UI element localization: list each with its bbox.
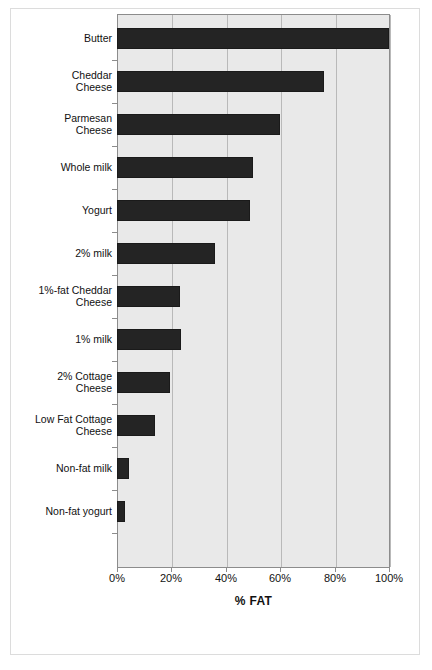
figure-canvas: ButterCheddar CheeseParmesan CheeseWhole… <box>0 0 432 670</box>
y-axis-category-label: Non-fat milk <box>8 462 112 475</box>
bar-row <box>117 28 390 49</box>
x-axis-tick-label: 60% <box>269 572 291 584</box>
bar-row <box>117 501 390 522</box>
y-axis-tick <box>112 103 117 104</box>
y-axis-category-label: 1% milk <box>8 333 112 346</box>
bar <box>117 243 215 264</box>
y-axis-tick <box>112 275 117 276</box>
y-axis-category-label: Non-fat yogurt <box>8 505 112 518</box>
y-axis-category-label: Low Fat Cottage Cheese <box>8 413 112 438</box>
x-axis-tick-label: 40% <box>215 572 237 584</box>
bar <box>117 501 125 522</box>
bar-row <box>117 415 390 436</box>
bar <box>117 200 250 221</box>
y-axis-category-label: Butter <box>8 32 112 45</box>
bar <box>117 28 389 49</box>
y-axis-tick <box>112 189 117 190</box>
y-axis-category-label: Parmesan Cheese <box>8 112 112 137</box>
bar-row <box>117 372 390 393</box>
y-axis-category-label: 2% Cottage Cheese <box>8 370 112 395</box>
bar <box>117 458 129 479</box>
bars-layer <box>117 14 390 568</box>
y-axis-category-label: Yogurt <box>8 204 112 217</box>
bar <box>117 415 155 436</box>
y-axis-tick <box>112 404 117 405</box>
y-axis-tick <box>112 490 117 491</box>
y-axis-tick <box>112 318 117 319</box>
bar-row <box>117 114 390 135</box>
y-axis-tick <box>112 361 117 362</box>
gridline-100% <box>390 15 391 567</box>
bar <box>117 372 170 393</box>
bar-row <box>117 200 390 221</box>
bar-row <box>117 458 390 479</box>
x-axis-title: % FAT <box>117 594 390 608</box>
y-axis-tick <box>112 232 117 233</box>
y-axis-tick <box>112 533 117 534</box>
y-axis-tick <box>112 60 117 61</box>
x-axis-tick-label: 100% <box>375 572 403 584</box>
bar-row <box>117 243 390 264</box>
bar <box>117 286 180 307</box>
bar-row <box>117 286 390 307</box>
y-axis-category-label: Cheddar Cheese <box>8 69 112 94</box>
x-axis-tick-label: 20% <box>160 572 182 584</box>
bar-row <box>117 71 390 92</box>
y-axis-labels: ButterCheddar CheeseParmesan CheeseWhole… <box>0 14 112 568</box>
bar <box>117 329 181 350</box>
bar <box>117 114 280 135</box>
x-axis-tick-labels: 0%20%40%60%80%100% <box>117 572 390 590</box>
x-axis-tick-label: 80% <box>324 572 346 584</box>
bar <box>117 71 324 92</box>
y-axis-category-label: Whole milk <box>8 161 112 174</box>
x-axis-tick-label: 0% <box>109 572 125 584</box>
y-axis-category-label: 1%-fat Cheddar Cheese <box>8 284 112 309</box>
y-axis-tick <box>112 146 117 147</box>
y-axis-category-label: 2% milk <box>8 247 112 260</box>
bar <box>117 157 253 178</box>
bar-row <box>117 157 390 178</box>
bar-row <box>117 329 390 350</box>
y-axis-tick <box>112 447 117 448</box>
